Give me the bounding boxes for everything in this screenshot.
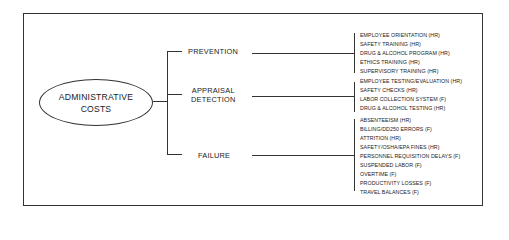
list-item: SUPERVISORY TRAINING (HR) [360, 67, 450, 76]
category-label-line2: DETECTION [191, 95, 236, 104]
list-item: DRUG & ALCOHOL TESTING (HR) [360, 104, 462, 113]
list-item: SAFETY TRAINING (HR) [360, 40, 450, 49]
list-item: SUSPENDED LABOR (F) [360, 161, 460, 170]
connector-branch-prevention [167, 51, 182, 52]
bracket-failure [354, 119, 355, 191]
connector-root [153, 101, 168, 102]
root-label-line1: ADMINISTRATIVE [59, 91, 133, 103]
connector-prevention-items [252, 53, 354, 54]
category-failure: FAILURE [198, 151, 230, 160]
connector-branch-failure [167, 154, 182, 155]
items-failure: ABSENTEEISM (HR) BILLING/DD250 ERRORS (F… [360, 116, 460, 197]
list-item: PERSONNEL REQUISITION DELAYS (F) [360, 152, 460, 161]
items-appraisal-detection: EMPLOYEE TESTING/EVALUATION (HR) SAFETY … [360, 77, 462, 113]
list-item: ABSENTEEISM (HR) [360, 116, 460, 125]
category-label: FAILURE [198, 151, 230, 160]
items-prevention: EMPLOYEE ORIENTATION (HR) SAFETY TRAININ… [360, 31, 450, 76]
connector-appraisal-items [252, 96, 354, 97]
list-item: ATTRITION (HR) [360, 134, 460, 143]
category-label-line1: APPRAISAL [191, 86, 236, 95]
connector-branch-appraisal [167, 94, 182, 95]
bracket-prevention [354, 33, 355, 73]
category-appraisal-detection: APPRAISAL DETECTION [191, 86, 236, 104]
category-prevention: PREVENTION [188, 47, 238, 56]
category-label: PREVENTION [188, 47, 238, 56]
list-item: BILLING/DD250 ERRORS (F) [360, 125, 460, 134]
root-node-administrative-costs: ADMINISTRATIVE COSTS [39, 79, 153, 126]
list-item: OVERTIME (F) [360, 170, 460, 179]
list-item: PRODUCTIVITY LOSSES (F) [360, 179, 460, 188]
bracket-appraisal [354, 82, 355, 112]
list-item: ETHICS TRAINING (HR) [360, 58, 450, 67]
list-item: SAFETY CHECKS (HR) [360, 86, 462, 95]
connector-trunk [167, 51, 168, 155]
connector-failure-items [252, 155, 354, 156]
list-item: EMPLOYEE TESTING/EVALUATION (HR) [360, 77, 462, 86]
root-label-line2: COSTS [81, 103, 112, 115]
list-item: LABOR COLLECTION SYSTEM (F) [360, 95, 462, 104]
list-item: TRAVEL BALANCES (F) [360, 188, 460, 197]
list-item: EMPLOYEE ORIENTATION (HR) [360, 31, 450, 40]
list-item: SAFETY/OSHA/EPA FINES (HR) [360, 143, 460, 152]
list-item: DRUG & ALCOHOL PROGRAM (HR) [360, 49, 450, 58]
